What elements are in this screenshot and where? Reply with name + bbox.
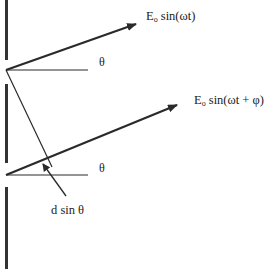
ray-top — [6, 24, 136, 70]
wall-segment-top — [5, 0, 8, 60]
double-slit-diagram: Eo sin(ωt) θ Eo sin(ωt + φ) θ d sin θ — [0, 0, 271, 269]
diagram-graphics — [0, 0, 271, 269]
ray-bottom — [6, 105, 177, 175]
angle-label-top: θ — [99, 56, 105, 68]
wall-segment-middle — [5, 84, 8, 163]
wall-segment-bottom — [5, 187, 8, 269]
wave-label-bottom: Eo sin(ωt + φ) — [194, 94, 264, 108]
path-difference-pointer — [43, 164, 66, 196]
perpendicular-line — [6, 70, 52, 167]
wave-top-expression: sin(ωt) — [158, 9, 196, 23]
wave-bottom-expression: sin(ωt + φ) — [206, 93, 264, 107]
barrier-wall — [5, 0, 8, 269]
wave-label-top: Eo sin(ωt) — [146, 10, 195, 24]
angle-label-bottom: θ — [99, 162, 105, 174]
wave-top-base: E — [146, 9, 154, 23]
path-difference-label: d sin θ — [51, 204, 84, 217]
wave-bottom-base: E — [194, 93, 202, 107]
